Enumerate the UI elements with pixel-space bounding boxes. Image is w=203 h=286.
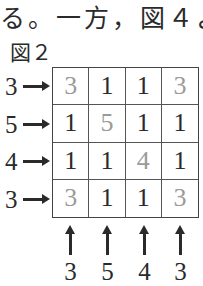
- grid-cell: 1: [126, 105, 162, 142]
- row-clue-value: 5: [5, 111, 18, 139]
- up-arrow-icon: [106, 231, 109, 255]
- grid-cell: 3: [53, 68, 89, 105]
- figure-label: 図２: [10, 36, 52, 66]
- puzzle-grid: 3113151111413113: [52, 67, 199, 218]
- column-clue-value: 5: [101, 258, 114, 286]
- grid-cell: 3: [53, 180, 89, 217]
- column-clue-value: 4: [138, 258, 151, 286]
- grid-cell: 1: [53, 105, 89, 142]
- row-clue-3: 4: [5, 143, 49, 180]
- right-arrow-icon: [23, 123, 45, 126]
- row-clue-4: 3: [5, 181, 49, 218]
- grid-cell: 1: [53, 143, 89, 180]
- row-clue-value: 3: [5, 186, 18, 214]
- up-arrow-icon: [69, 231, 72, 255]
- column-clue-value: 3: [64, 258, 77, 286]
- grid-cell: 1: [126, 180, 162, 217]
- grid-cell: 4: [126, 143, 162, 180]
- column-clue-4: 3: [162, 225, 199, 286]
- grid-cell: 1: [162, 143, 198, 180]
- up-arrow-icon: [179, 231, 182, 255]
- grid-cell: 3: [162, 180, 198, 217]
- row-clue-2: 5: [5, 106, 49, 143]
- grid-cell: 1: [126, 68, 162, 105]
- right-arrow-icon: [23, 198, 45, 201]
- column-clue-value: 3: [174, 258, 187, 286]
- grid-cell: 1: [162, 105, 198, 142]
- grid-cell: 1: [89, 180, 125, 217]
- row-clue-value: 4: [5, 148, 18, 176]
- right-arrow-icon: [23, 85, 45, 88]
- row-clue-1: 3: [5, 68, 49, 105]
- body-text-line: る。一方，図４より: [0, 0, 203, 34]
- column-clue-1: 3: [52, 225, 89, 286]
- grid-cell: 3: [162, 68, 198, 105]
- grid-cell: 5: [89, 105, 125, 142]
- column-clue-3: 4: [126, 225, 163, 286]
- grid-cell: 1: [89, 143, 125, 180]
- column-clue-2: 5: [89, 225, 126, 286]
- right-arrow-icon: [23, 160, 45, 163]
- up-arrow-icon: [143, 231, 146, 255]
- grid-cell: 1: [89, 68, 125, 105]
- row-clue-value: 3: [5, 73, 18, 101]
